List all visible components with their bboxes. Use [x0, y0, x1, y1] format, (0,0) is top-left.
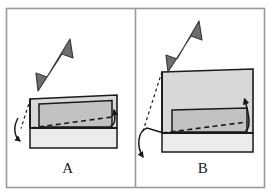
panel-label-a: A: [0, 160, 136, 177]
panel-a-inner-face: [39, 101, 112, 128]
panel-b-inner-face: [172, 108, 247, 132]
figure-container: A B: [0, 0, 271, 196]
panel-a-base-slab: [30, 128, 117, 148]
panel-label-b: B: [135, 160, 271, 177]
panel-b-base-slab: [162, 133, 253, 152]
